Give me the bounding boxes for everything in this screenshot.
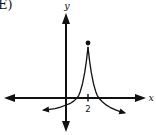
y-axis-up-arrow-icon — [62, 13, 70, 24]
function-graph-canvas: 2yx — [0, 0, 156, 135]
x-tick-label: 2 — [85, 104, 90, 114]
curve-right-branch — [88, 47, 124, 112]
curve-left-branch-arrow-icon — [42, 107, 49, 113]
answer-choice-figure: (E) 2yx — [0, 0, 156, 135]
x-axis-left-arrow-icon — [4, 94, 15, 102]
peak-point-dot — [86, 41, 91, 46]
curve-right-branch-arrow-icon — [119, 108, 127, 114]
y-axis-down-arrow-icon — [62, 121, 70, 132]
x-axis-label: x — [149, 92, 155, 103]
y-axis-label: y — [63, 0, 70, 11]
x-axis-right-arrow-icon — [135, 94, 146, 102]
